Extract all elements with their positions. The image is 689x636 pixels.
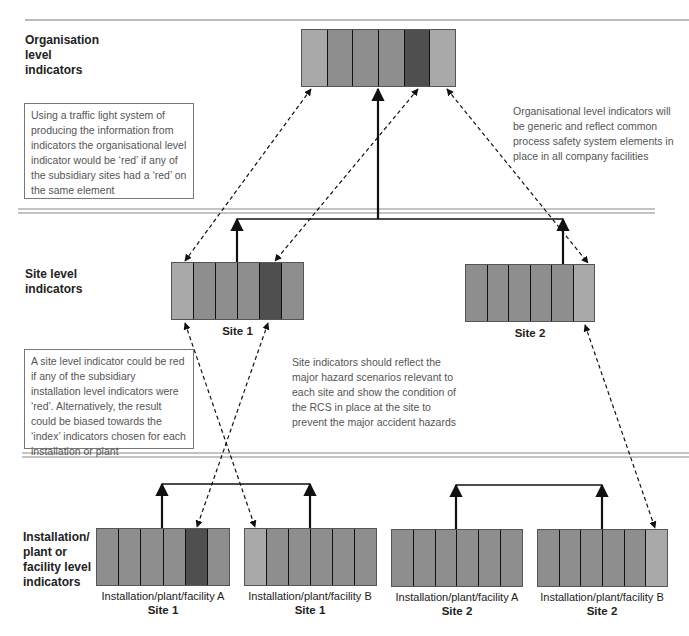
level-label-site: Site level indicators <box>25 267 82 297</box>
installation-a-site2-site: Site 2 <box>377 605 537 617</box>
indicator-cell-normal <box>509 265 531 321</box>
indicator-cell-normal <box>531 265 553 321</box>
level-label-installation: Installation/ plant or facility level in… <box>23 530 91 590</box>
indicator-cell-normal <box>538 530 560 586</box>
indicator-cell-light <box>172 263 194 319</box>
indicator-cell-normal <box>355 529 376 585</box>
indicator-cell-normal <box>625 530 647 586</box>
indicator-cell-normal <box>238 263 260 319</box>
installation-a-site1-site: Site 1 <box>83 604 243 616</box>
site2-label: Site 2 <box>465 327 595 339</box>
indicator-cell-normal <box>141 529 163 585</box>
indicator-cell-normal <box>194 263 216 319</box>
indicator-cell-normal <box>581 530 603 586</box>
indicator-cell-normal <box>164 529 186 585</box>
indicator-cell-normal <box>311 529 333 585</box>
indicator-bar-installation-b-site2 <box>537 529 668 587</box>
indicator-cell-light <box>646 530 667 586</box>
note-site-red: A site level indicator could be red if a… <box>24 349 194 449</box>
site1-label: Site 1 <box>171 325 304 337</box>
indicator-cell-dark <box>405 30 431 86</box>
indicator-cell-normal <box>392 530 414 586</box>
note-site-reflect: Site indicators should reflect the major… <box>292 355 462 430</box>
indicator-cell-normal <box>457 530 479 586</box>
indicator-cell-light <box>302 30 328 86</box>
installation-b-site2-site: Site 2 <box>522 605 682 617</box>
indicator-cell-normal <box>488 265 510 321</box>
indicator-cell-normal <box>289 529 311 585</box>
indicator-cell-normal <box>282 263 303 319</box>
indicator-cell-normal <box>414 530 436 586</box>
note-organisational-generic: Organisational level indicators will be … <box>513 104 683 164</box>
indicator-cell-normal <box>333 529 355 585</box>
indicator-bar-site1 <box>171 262 304 320</box>
installation-a-site1-name: Installation/plant/facility A <box>83 590 243 602</box>
installation-to-site2-connector <box>456 485 602 529</box>
indicator-cell-light <box>430 30 455 86</box>
installation-to-site1-connector <box>162 484 310 528</box>
indicator-cell-normal <box>436 530 458 586</box>
indicator-cell-normal <box>119 529 141 585</box>
indicator-cell-normal <box>97 529 119 585</box>
installation-a-site2-name: Installation/plant/facility A <box>377 591 537 603</box>
level-label-organisation: Organisation level indicators <box>25 33 99 78</box>
indicator-cell-normal <box>267 529 289 585</box>
indicator-bar-installation-a-site2 <box>391 529 523 587</box>
indicator-cell-normal <box>479 530 501 586</box>
indicator-bar-installation-b-site1 <box>244 528 377 586</box>
indicator-cell-normal <box>216 263 238 319</box>
indicator-cell-normal <box>466 265 488 321</box>
installation-b-site1-site: Site 1 <box>230 604 390 616</box>
indicator-cell-dark <box>260 263 282 319</box>
indicator-cell-dark <box>186 529 208 585</box>
indicator-cell-normal <box>501 530 522 586</box>
indicator-cell-normal <box>603 530 625 586</box>
installation-b-site2-name: Installation/plant/facility B <box>522 591 682 603</box>
indicator-bar-site2 <box>465 264 595 322</box>
indicator-cell-normal <box>560 530 582 586</box>
indicator-bar-installation-a-site1 <box>96 528 230 586</box>
indicator-cell-normal <box>353 30 379 86</box>
indicator-cell-normal <box>379 30 405 86</box>
indicator-cell-normal <box>328 30 354 86</box>
indicator-bar-organisation <box>301 29 456 87</box>
indicator-cell-light <box>574 265 595 321</box>
installation-b-site1-name: Installation/plant/facility B <box>230 590 390 602</box>
indicator-cell-normal <box>208 529 229 585</box>
indicator-cell-normal <box>552 265 574 321</box>
indicator-cell-light <box>245 529 267 585</box>
note-traffic-light: Using a traffic light system of producin… <box>24 103 194 199</box>
